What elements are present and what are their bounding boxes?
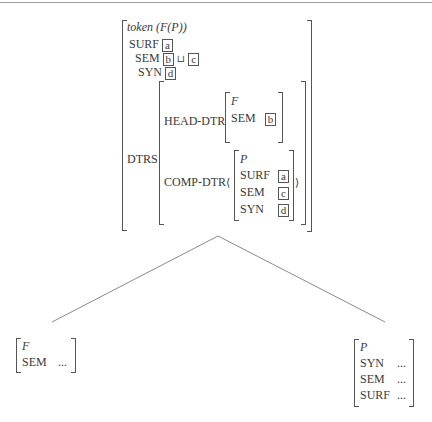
feature-attr: SYN	[138, 65, 162, 79]
tag-box: d	[165, 67, 176, 80]
comp-dtr-sem-value: c	[278, 185, 289, 200]
root-type-label: token (F(P))	[127, 20, 187, 34]
comp-dtr-syn-value: d	[278, 202, 289, 217]
right-branch	[218, 236, 385, 322]
feature-attr: SEM	[135, 51, 160, 65]
head-dtr-feature-sem: SEM	[231, 111, 256, 125]
root-right-bracket	[307, 20, 312, 232]
comp-dtr-right-bracket	[289, 150, 294, 221]
head-dtr-label: HEAD-DTR	[164, 114, 225, 128]
dtrs-label: DTRS	[127, 152, 158, 166]
comp-dtr-label: COMP-DTR	[164, 175, 226, 189]
right-child-right-bracket	[409, 339, 414, 407]
right-child-sem-value: ...	[397, 372, 406, 386]
root-left-bracket	[122, 20, 127, 231]
feature-attr: SURF	[129, 37, 159, 51]
right-child-syn-value: ...	[397, 356, 406, 370]
right-child-surf-value: ...	[397, 388, 406, 402]
left-child-sem-value: ...	[58, 355, 67, 369]
tag-box: d	[278, 204, 289, 217]
head-dtr-sem-value: b	[265, 111, 276, 126]
dtrs-right-bracket	[301, 81, 306, 225]
dtrs-left-bracket	[159, 81, 164, 225]
comp-dtr-surf-value: a	[278, 168, 289, 183]
tag-box: b	[265, 113, 276, 126]
right-child-feature-surf: SURF	[360, 388, 390, 402]
head-dtr-left-bracket	[225, 92, 230, 143]
comp-dtr-feature-sem: SEM	[240, 185, 265, 199]
comp-dtr-left-bracket	[234, 150, 239, 221]
right-child-feature-sem: SEM	[360, 372, 385, 386]
root-feature-sem: SEM b ⊔ c	[135, 51, 199, 66]
left-child-left-bracket	[16, 338, 21, 373]
comp-dtr-feature-syn: SYN	[240, 202, 264, 216]
comp-dtr-open-angle: ⟨	[226, 175, 230, 189]
root-feature-surf: SURF a	[129, 37, 173, 52]
right-child-type: P	[360, 340, 367, 354]
right-child-left-bracket	[354, 339, 359, 407]
unification-operator: ⊔	[177, 53, 185, 64]
comp-dtr-type: P	[240, 152, 247, 166]
left-child-type: F	[22, 339, 29, 353]
tag-box: a	[278, 170, 289, 183]
tag-box: c	[188, 53, 199, 66]
tag-box: c	[278, 187, 289, 200]
left-branch	[52, 236, 218, 322]
comp-dtr-close-angle: ⟩	[295, 175, 299, 189]
left-child-right-bracket	[71, 338, 76, 373]
left-child-feature-sem: SEM	[22, 355, 47, 369]
head-dtr-right-bracket	[278, 92, 283, 143]
root-feature-syn: SYN d	[138, 65, 176, 80]
tag-box: a	[162, 39, 173, 52]
head-dtr-type: F	[231, 94, 238, 108]
tag-box: b	[163, 53, 174, 66]
right-child-feature-syn: SYN	[360, 356, 384, 370]
comp-dtr-feature-surf: SURF	[240, 168, 270, 182]
